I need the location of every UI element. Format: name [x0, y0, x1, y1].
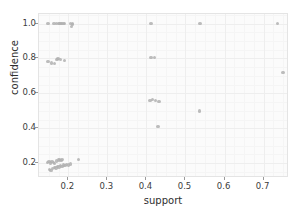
minor-gridline-horizontal	[39, 76, 287, 77]
minor-gridline-vertical	[59, 14, 60, 176]
y-axis-tick-label: 0.6	[22, 87, 36, 97]
x-axis-tick-label: 0.5	[178, 181, 192, 191]
minor-gridline-horizontal	[39, 137, 287, 138]
minor-gridline-vertical	[244, 14, 245, 176]
data-point	[46, 22, 49, 25]
x-axis-tick-label: 0.7	[256, 181, 270, 191]
y-axis-tick-label: 0.2	[22, 157, 36, 167]
minor-gridline-vertical	[49, 14, 50, 176]
minor-gridline-vertical	[78, 14, 79, 176]
minor-gridline-vertical	[215, 14, 216, 176]
minor-gridline-vertical	[283, 14, 284, 176]
minor-gridline-horizontal	[39, 111, 287, 112]
minor-gridline-horizontal	[39, 85, 287, 86]
gridline-horizontal	[39, 24, 287, 25]
minor-gridline-vertical	[166, 14, 167, 176]
minor-gridline-horizontal	[39, 172, 287, 173]
minor-gridline-vertical	[176, 14, 177, 176]
data-point	[60, 158, 63, 161]
minor-gridline-vertical	[137, 14, 138, 176]
minor-gridline-horizontal	[39, 120, 287, 121]
minor-gridline-vertical	[127, 14, 128, 176]
x-axis-tick-label: 0.4	[139, 181, 153, 191]
gridline-vertical	[225, 14, 226, 176]
data-point	[198, 109, 201, 112]
data-point	[276, 22, 279, 25]
gridline-vertical	[264, 14, 265, 176]
gridline-horizontal	[39, 163, 287, 164]
plot-area	[38, 13, 288, 177]
x-axis-tick	[106, 177, 107, 180]
x-axis-tick	[145, 177, 146, 180]
minor-gridline-horizontal	[39, 154, 287, 155]
scatter-chart-figure: 0.20.30.40.50.60.70.20.40.60.81.0 suppor…	[0, 0, 304, 217]
gridline-vertical	[146, 14, 147, 176]
data-point	[59, 58, 62, 61]
minor-gridline-vertical	[254, 14, 255, 176]
x-axis-tick-label: 0.3	[100, 181, 114, 191]
y-axis-tick-label: 0.8	[22, 52, 36, 62]
minor-gridline-vertical	[195, 14, 196, 176]
data-point	[77, 158, 80, 161]
x-axis-tick	[67, 177, 68, 180]
gridline-vertical	[107, 14, 108, 176]
minor-gridline-horizontal	[39, 32, 287, 33]
y-axis-tick-label: 0.4	[22, 122, 36, 132]
minor-gridline-vertical	[205, 14, 206, 176]
minor-gridline-vertical	[273, 14, 274, 176]
x-axis-tick-label: 0.2	[61, 181, 75, 191]
minor-gridline-horizontal	[39, 15, 287, 16]
data-point	[63, 59, 66, 62]
data-point	[149, 22, 152, 25]
data-point	[70, 25, 73, 28]
gridline-vertical	[185, 14, 186, 176]
gridline-horizontal	[39, 58, 287, 59]
y-axis-label: confidence	[9, 18, 20, 118]
data-point	[63, 22, 66, 25]
minor-gridline-horizontal	[39, 102, 287, 103]
data-point	[53, 62, 56, 65]
minor-gridline-vertical	[234, 14, 235, 176]
minor-gridline-horizontal	[39, 67, 287, 68]
gridline-vertical	[68, 14, 69, 176]
x-axis-tick	[224, 177, 225, 180]
minor-gridline-vertical	[156, 14, 157, 176]
data-point	[198, 22, 201, 25]
gridline-horizontal	[39, 128, 287, 129]
x-axis-tick	[184, 177, 185, 180]
y-axis-tick-label: 1.0	[22, 18, 36, 28]
x-axis-tick-label: 0.6	[217, 181, 231, 191]
minor-gridline-vertical	[98, 14, 99, 176]
gridline-horizontal	[39, 93, 287, 94]
data-point	[281, 71, 284, 74]
minor-gridline-horizontal	[39, 50, 287, 51]
minor-gridline-horizontal	[39, 41, 287, 42]
data-point	[156, 125, 159, 128]
x-axis-label: support	[38, 195, 288, 206]
data-point	[157, 100, 160, 103]
minor-gridline-vertical	[88, 14, 89, 176]
minor-gridline-horizontal	[39, 146, 287, 147]
x-axis-tick	[263, 177, 264, 180]
data-point	[69, 162, 72, 165]
minor-gridline-vertical	[117, 14, 118, 176]
